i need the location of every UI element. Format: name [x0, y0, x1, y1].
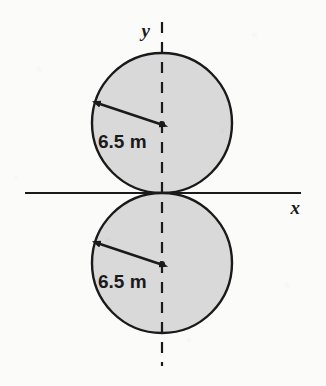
lower-radius-label: 6.5 m [98, 271, 147, 292]
lower-circle-center-dot [159, 261, 165, 267]
y-axis-label: y [140, 20, 151, 41]
upper-circle-center-dot [159, 121, 165, 127]
x-axis-label: x [290, 197, 301, 218]
figure-canvas: 6.5 m 6.5 m y x [0, 0, 326, 386]
physics-figure: 6.5 m 6.5 m y x [0, 0, 326, 386]
upper-radius-label: 6.5 m [98, 131, 147, 152]
